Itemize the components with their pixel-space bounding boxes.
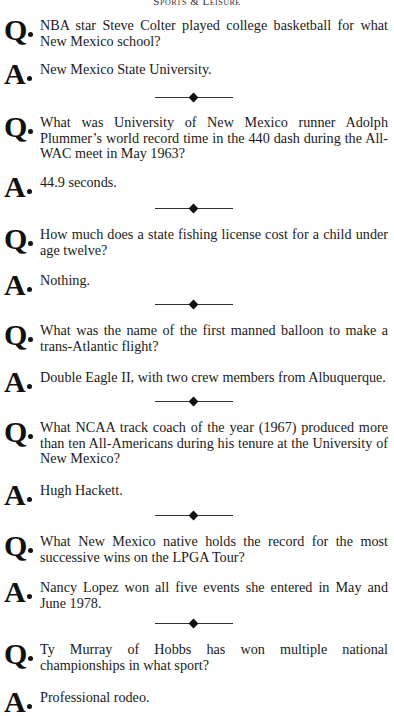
divider xyxy=(155,93,233,103)
q-mark: Q xyxy=(4,639,33,669)
question-2: QWhat was University of New Mexico runne… xyxy=(4,115,388,162)
a-mark: A xyxy=(4,270,32,300)
diamond-ornament-icon xyxy=(189,204,199,214)
diamond-ornament-icon xyxy=(189,93,199,103)
diamond-ornament-icon xyxy=(189,300,199,310)
answer-1: ANew Mexico State University. xyxy=(4,62,388,78)
answer-2: A44.9 seconds. xyxy=(4,175,388,191)
a-mark: A xyxy=(4,367,32,397)
answer-6: ANancy Lopez won all five events she ent… xyxy=(4,580,388,611)
q-mark: Q xyxy=(4,15,33,45)
question-1: QNBA star Steve Colter played college ba… xyxy=(4,18,388,49)
a-mark: A xyxy=(4,59,32,89)
divider xyxy=(155,511,233,521)
running-header: Sports & Leisure xyxy=(0,0,394,7)
divider xyxy=(155,204,233,214)
question-3: QHow much does a state fishing license c… xyxy=(4,227,388,258)
q-mark: Q xyxy=(4,224,33,254)
a-mark: A xyxy=(4,480,32,510)
diamond-ornament-icon xyxy=(189,619,199,629)
q-mark: Q xyxy=(4,112,33,142)
answer-3: ANothing. xyxy=(4,273,388,289)
a-mark: A xyxy=(4,577,32,607)
question-7: QTy Murray of Hobbs has won multiple nat… xyxy=(4,642,388,673)
question-6: QWhat New Mexico native holds the record… xyxy=(4,534,388,565)
diamond-ornament-icon xyxy=(189,511,199,521)
question-4: QWhat was the name of the first manned b… xyxy=(4,323,388,354)
question-5: QWhat NCAA track coach of the year (1967… xyxy=(4,420,388,467)
q-mark: Q xyxy=(4,531,33,561)
answer-7: AProfessional rodeo. xyxy=(4,690,388,706)
q-mark: Q xyxy=(4,320,33,350)
diamond-ornament-icon xyxy=(189,397,199,407)
divider xyxy=(155,397,233,407)
divider xyxy=(155,300,233,310)
a-mark: A xyxy=(4,172,32,202)
answer-4: ADouble Eagle II, with two crew members … xyxy=(4,370,388,386)
divider xyxy=(155,619,233,629)
q-mark: Q xyxy=(4,417,33,447)
answer-5: AHugh Hackett. xyxy=(4,483,388,499)
a-mark: A xyxy=(4,687,32,716)
